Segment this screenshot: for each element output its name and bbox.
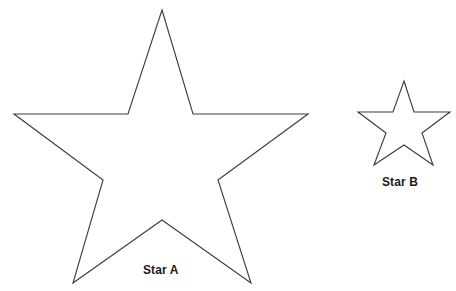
star-diagram-canvas: [0, 0, 456, 291]
star-a-label: Star A: [143, 264, 179, 276]
star-b-label: Star B: [382, 176, 418, 188]
